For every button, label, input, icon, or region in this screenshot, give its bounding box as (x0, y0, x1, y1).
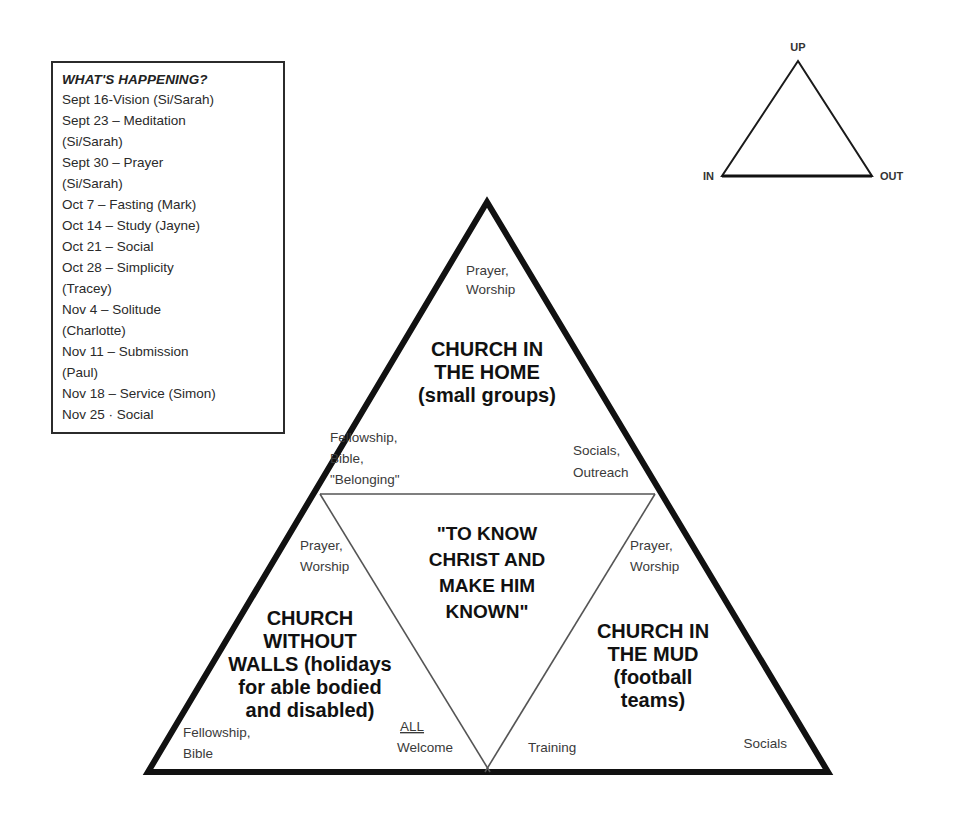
top-right-base-label-line-1: Socials, (573, 443, 620, 458)
top-corner-label-line-1: Prayer, (466, 263, 509, 278)
left-corner-label-line-1: Prayer, (300, 538, 343, 553)
left-title-line-5: and disabled) (246, 699, 375, 721)
section-center-mission: "TO KNOW CHRIST AND MAKE HIM KNOWN" (429, 523, 545, 622)
left-title-line-1: CHURCH (267, 607, 354, 629)
right-title-line-2: THE MUD (607, 643, 698, 665)
center-title-line-2: CHRIST AND (429, 549, 545, 570)
compass-triangle: UP IN OUT (703, 41, 904, 182)
left-title-line-3: WALLS (holidays (228, 653, 391, 675)
center-title-line-1: "TO KNOW (437, 523, 538, 544)
top-title-line-2: THE HOME (434, 361, 540, 383)
top-corner-label-line-2: Worship (466, 282, 515, 297)
right-base-right-label: Socials (743, 736, 787, 751)
left-title-line-4: for able bodied (238, 676, 381, 698)
right-corner-label-line-2: Worship (630, 559, 679, 574)
top-left-base-label-line-2: Bible, (330, 451, 364, 466)
right-title-line-1: CHURCH IN (597, 620, 709, 642)
top-title-line-3: (small groups) (418, 384, 556, 406)
diagram-canvas: UP IN OUT Prayer, Worship CHURCH IN THE … (0, 0, 959, 826)
left-base-right-label-emphasis: ALL (400, 719, 425, 734)
left-corner-label-line-2: Worship (300, 559, 349, 574)
right-corner-label-line-1: Prayer, (630, 538, 673, 553)
top-title-line-1: CHURCH IN (431, 338, 543, 360)
center-title-line-4: KNOWN" (446, 601, 529, 622)
right-title-line-4: teams) (621, 689, 685, 711)
right-base-left-label: Training (528, 740, 576, 755)
left-base-left-label-line-2: Bible (183, 746, 213, 761)
left-base-right-label-rest: Welcome (397, 740, 453, 755)
top-left-base-label-line-3: "Belonging" (330, 472, 400, 487)
left-title-line-2: WITHOUT (263, 630, 356, 652)
compass-label-in: IN (703, 170, 714, 182)
left-base-left-label-line-1: Fellowship, (183, 725, 251, 740)
compass-label-out: OUT (880, 170, 904, 182)
center-title-line-3: MAKE HIM (439, 575, 535, 596)
compass-label-up: UP (790, 41, 805, 53)
right-title-line-3: (football (614, 666, 693, 688)
section-church-in-the-mud: Prayer, Worship CHURCH IN THE MUD (footb… (528, 538, 787, 755)
section-church-in-the-home: Prayer, Worship CHURCH IN THE HOME (smal… (330, 263, 629, 487)
top-left-base-label-line-1: Fellowship, (330, 430, 398, 445)
top-right-base-label-line-2: Outreach (573, 465, 629, 480)
compass-triangle-outline (722, 61, 872, 176)
